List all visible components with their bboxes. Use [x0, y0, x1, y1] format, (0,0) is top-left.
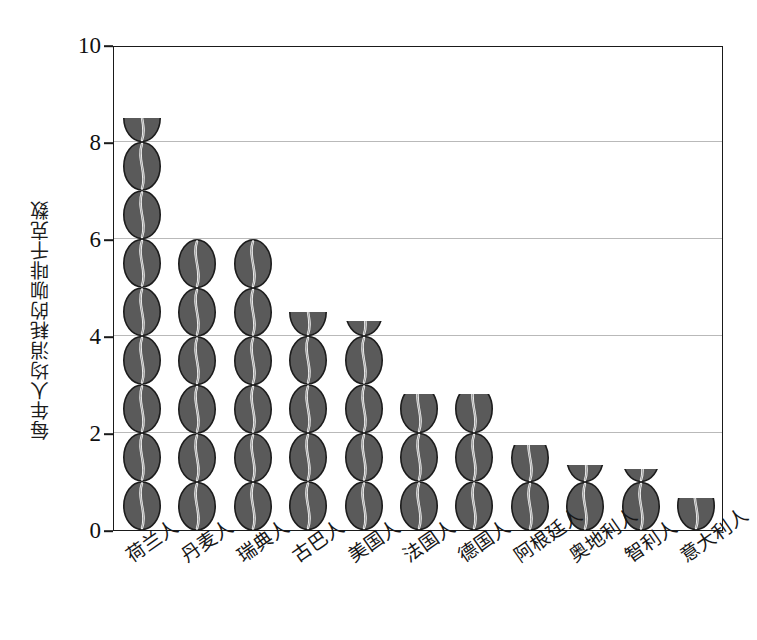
coffee-consumption-bar-chart: 每年人均消耗的咖啡千克数 0246810 荷兰人丹麦人瑞典人古巴人美国人法国人德…: [0, 0, 757, 640]
bar-古巴人: [289, 312, 327, 530]
bar-瑞典人: [234, 239, 272, 530]
gridline-8: [114, 141, 722, 142]
y-tick-mark-4: [104, 336, 113, 338]
plot-area: [113, 46, 723, 531]
y-tick-mark-8: [104, 142, 113, 144]
bar-法国人: [400, 394, 438, 530]
y-tick-mark-10: [104, 45, 113, 47]
bar-阿根廷人: [511, 445, 549, 530]
y-tick-label-8: 8: [61, 130, 101, 156]
bar-德国人: [455, 394, 493, 530]
y-axis-title: 每年人均消耗的咖啡千克数: [22, 105, 58, 535]
y-tick-label-6: 6: [61, 227, 101, 253]
y-tick-mark-0: [104, 530, 113, 532]
y-tick-mark-6: [104, 239, 113, 241]
y-tick-label-10: 10: [61, 33, 101, 59]
bar-美国人: [345, 321, 383, 530]
y-tick-label-2: 2: [61, 421, 101, 447]
y-tick-label-0: 0: [61, 518, 101, 544]
y-tick-mark-2: [104, 433, 113, 435]
y-tick-label-4: 4: [61, 324, 101, 350]
bar-荷兰人: [123, 118, 161, 530]
bar-丹麦人: [178, 239, 216, 530]
